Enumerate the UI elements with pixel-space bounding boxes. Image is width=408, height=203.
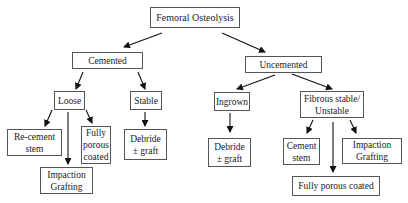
node-fibrous-stable-unstable: Fibrous stable/ Unstable <box>300 91 364 118</box>
arrow-cemented-to-loose <box>76 72 83 89</box>
arrow-loose-to-fully-porous-left <box>86 110 92 123</box>
node-ingrown: Ingrown <box>214 92 250 111</box>
node-debride-graft-left: Debride ± graft <box>124 129 167 160</box>
arrow-cemented-to-stable <box>138 72 145 89</box>
arrow-uncemented-to-fibrous <box>292 74 332 89</box>
node-loose: Loose <box>54 91 85 110</box>
node-impaction-grafting-right: Impaction Grafting <box>342 138 402 164</box>
arrow-fibrous-to-impaction-right <box>350 120 356 133</box>
node-uncemented: Uncemented <box>245 56 322 73</box>
arrow-loose-to-recement <box>45 110 52 126</box>
node-debride-graft-right: Debride ± graft <box>208 138 251 167</box>
arrow-root-to-cemented <box>124 33 162 47</box>
arrow-fibrous-to-cement-stem <box>307 120 313 133</box>
node-re-cement-stem: Re-cement stem <box>7 129 62 156</box>
node-cemented: Cemented <box>72 52 143 69</box>
node-cement-stem: Cement stem <box>283 138 320 165</box>
arrow-root-to-uncemented <box>222 33 265 52</box>
node-stable: Stable <box>130 91 162 110</box>
node-femoral-osteolysis: Femoral Osteolysis <box>150 7 240 28</box>
node-fully-porous-coated-left: Fully porous coated <box>81 126 111 164</box>
arrow-uncemented-to-ingrown <box>237 75 275 89</box>
node-fully-porous-coated-right: Fully porous coated <box>292 176 380 196</box>
node-impaction-grafting-left: Impaction Grafting <box>40 167 93 194</box>
